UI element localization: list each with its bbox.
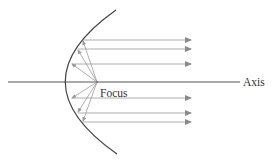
reflected-parallel-rays — [72, 40, 191, 122]
focus-to-mirror-rays — [72, 41, 97, 121]
parabola-reflector-diagram: Focus Axis — [0, 0, 274, 163]
focus-label: Focus — [100, 87, 128, 99]
axis-label: Axis — [243, 76, 265, 88]
focus-point — [96, 81, 98, 83]
